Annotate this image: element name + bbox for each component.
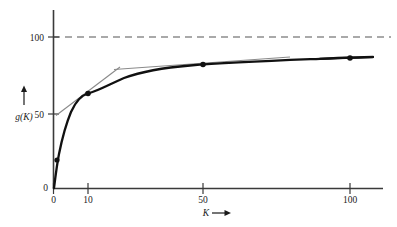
plot-area: 100 50 0 0 10 50 100 g(K) K xyxy=(0,0,397,227)
x-tick-label-50: 50 xyxy=(198,195,208,205)
x-axis-arrow-head-icon xyxy=(225,210,232,216)
data-marker xyxy=(85,91,91,97)
data-marker xyxy=(347,55,353,61)
curve-g-of-K xyxy=(54,57,373,188)
y-tick-label-50: 50 xyxy=(35,110,45,120)
y-tick-label-100: 100 xyxy=(30,33,45,43)
x-tick-label-10: 10 xyxy=(83,195,93,205)
y-axis-label: g(K) xyxy=(15,112,32,123)
y-tick-label-0: 0 xyxy=(43,183,48,193)
data-marker xyxy=(200,62,206,68)
y-axis-arrow-head-icon xyxy=(21,86,27,93)
x-axis-label: K xyxy=(202,208,210,218)
x-tick-label-0: 0 xyxy=(51,195,56,205)
x-tick-label-100: 100 xyxy=(343,195,358,205)
curve-tail xyxy=(320,57,373,59)
data-marker xyxy=(54,157,59,162)
chart-figure: 100 50 0 0 10 50 100 g(K) K xyxy=(0,0,397,227)
